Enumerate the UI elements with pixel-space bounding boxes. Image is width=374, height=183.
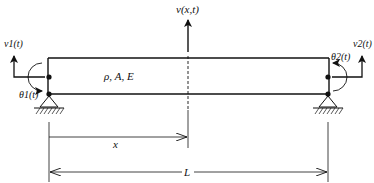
theta1-label: θ1(t) — [19, 89, 39, 101]
vxt-label: v(x,t) — [176, 3, 199, 16]
properties-label: ρ, A, E — [103, 70, 134, 82]
v2-label: v2(t) — [353, 38, 373, 50]
right-pin-support-icon — [313, 96, 343, 114]
L-label: L — [183, 166, 190, 178]
node-2-top — [325, 74, 330, 79]
theta2-label: θ2(t) — [331, 51, 351, 63]
left-pin-support-icon — [34, 96, 64, 114]
x-label: x — [112, 138, 118, 150]
beam — [48, 58, 329, 94]
v1-arrow-icon — [14, 56, 45, 77]
node-1-top — [46, 74, 51, 79]
beam-diagram: v(x,t) v1(t) θ1(t) v2(t) θ2(t) ρ, A, E — [0, 0, 374, 183]
v1-label: v1(t) — [4, 38, 24, 50]
